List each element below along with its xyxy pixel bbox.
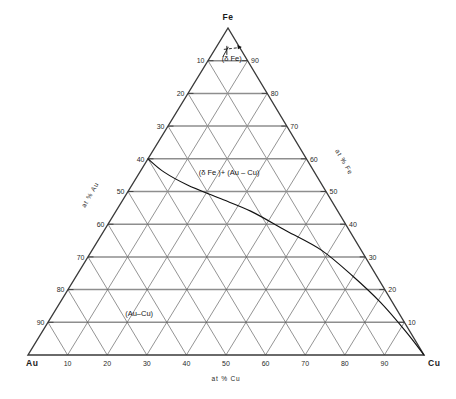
tick-label-right-30: 30 [369, 254, 377, 261]
grid-line-cu [226, 192, 326, 356]
ternary-phase-diagram: FeAuCu1010102020203030304040405050506060… [0, 0, 456, 399]
grid-line-cu [305, 257, 365, 355]
phase-label-two-phase: (δ Fe )+ (Au – Cu) [199, 168, 260, 177]
tick-label-bottom-10: 10 [64, 360, 72, 367]
tick-label-left-30: 30 [157, 123, 165, 130]
tick-label-right-80: 80 [271, 90, 279, 97]
tick-label-bottom-20: 20 [103, 360, 111, 367]
phase-label-delta-iron: (δ Fe) [222, 54, 243, 63]
tick-label-left-50: 50 [117, 188, 125, 195]
tick-label-left-60: 60 [97, 221, 105, 228]
ternary-diagram-container: FeAuCu1010102020203030304040405050506060… [0, 0, 456, 399]
tick-label-left-80: 80 [57, 286, 65, 293]
grid-line-cu [384, 322, 404, 355]
axis-label-right: at % Fe [334, 148, 354, 176]
tick-label-bottom-80: 80 [341, 360, 349, 367]
tick-label-right-70: 70 [290, 123, 298, 130]
tick-label-right-50: 50 [330, 188, 338, 195]
tick-label-bottom-40: 40 [183, 360, 191, 367]
tick-label-right-40: 40 [349, 221, 357, 228]
tick-label-right-20: 20 [388, 286, 396, 293]
tick-label-right-10: 10 [408, 319, 416, 326]
grid-line-au [208, 61, 384, 355]
grid-line-cu [147, 126, 287, 355]
grid-line-au [168, 126, 305, 355]
tick-label-bottom-30: 30 [143, 360, 151, 367]
vertex-label-cu: Cu [428, 358, 441, 368]
tick-label-left-10: 10 [197, 57, 205, 64]
tick-label-bottom-90: 90 [381, 360, 389, 367]
tick-label-bottom-50: 50 [222, 360, 230, 367]
tick-label-left-20: 20 [177, 90, 185, 97]
tick-label-left-40: 40 [137, 156, 145, 163]
tick-label-right-90: 90 [251, 57, 259, 64]
tick-label-right-60: 60 [310, 156, 318, 163]
tick-label-left-70: 70 [77, 254, 85, 261]
axis-label-bottom: at % Cu [211, 375, 240, 382]
grid-line-au [128, 192, 226, 356]
tick-label-bottom-70: 70 [301, 360, 309, 367]
axis-label-left: at % Au [80, 181, 100, 209]
grid-line-cu [68, 61, 248, 355]
grid-line-au [48, 322, 68, 355]
phase-label-gold-copper: (Au–Cu) [125, 309, 153, 318]
tick-label-bottom-60: 60 [262, 360, 270, 367]
tick-label-left-90: 90 [37, 319, 45, 326]
grid-line-au [88, 257, 147, 355]
vertex-label-au: Au [26, 358, 39, 368]
vertex-label-fe: Fe [222, 12, 233, 22]
